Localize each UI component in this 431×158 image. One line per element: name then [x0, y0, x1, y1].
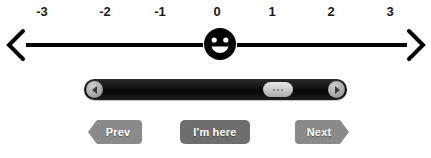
scrollbar-thumb[interactable]: [263, 82, 293, 97]
number-line: -3 -2 -1 0 1 2 3: [0, 0, 431, 66]
grip-dots-icon: [273, 89, 275, 91]
button-row: Prev I'm here Next: [0, 120, 431, 148]
tick-label-zero: 0: [202, 4, 232, 20]
horizontal-scrollbar[interactable]: [84, 79, 347, 100]
triangle-right-icon: [335, 86, 340, 94]
scrollbar-right-button[interactable]: [328, 81, 345, 98]
tick-label-minus-1: -1: [145, 4, 175, 20]
smiley-face-icon: [203, 27, 237, 61]
im-here-button-label: I'm here: [193, 126, 236, 138]
app-root: -3 -2 -1 0 1 2 3: [0, 0, 431, 158]
prev-button[interactable]: Prev: [88, 120, 142, 144]
tick-label-two: 2: [316, 4, 346, 20]
tick-label-one: 1: [257, 4, 287, 20]
triangle-left-icon: [92, 86, 97, 94]
tick-label-minus-3: -3: [27, 4, 57, 20]
prev-button-label: Prev: [106, 126, 131, 138]
number-line-tick-labels: -3 -2 -1 0 1 2 3: [0, 4, 431, 24]
tick-label-three: 3: [375, 4, 405, 20]
next-button-label: Next: [307, 126, 332, 138]
scrollbar-left-button[interactable]: [86, 81, 103, 98]
arrow-left-icon: [9, 31, 23, 59]
arrow-right-icon: [409, 31, 423, 59]
grip-dots-icon: [281, 89, 283, 91]
next-button[interactable]: Next: [295, 120, 349, 144]
tick-label-minus-2: -2: [90, 4, 120, 20]
im-here-button[interactable]: I'm here: [180, 120, 250, 144]
grip-dots-icon: [277, 89, 279, 91]
